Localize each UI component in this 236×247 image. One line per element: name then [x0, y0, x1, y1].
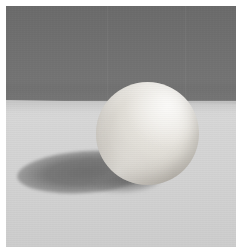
backdrop-wall — [6, 6, 236, 101]
sphere-specular-highlight — [96, 82, 199, 185]
still-life-photograph: A matte white sphere resting on a pale g… — [0, 0, 236, 247]
wall-seam-left — [107, 6, 108, 101]
wall-seam-right — [185, 6, 186, 101]
sphere-bounce-light — [96, 82, 199, 185]
photo-plate: A matte white sphere resting on a pale g… — [6, 6, 236, 247]
sphere-object — [96, 82, 199, 185]
